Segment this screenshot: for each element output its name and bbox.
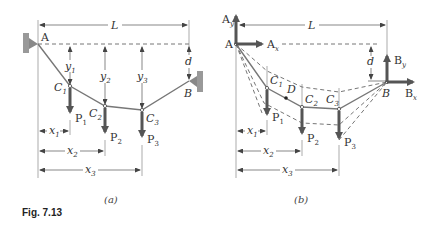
alt-shape-right (339, 82, 387, 140)
label-point-a: A (224, 38, 234, 51)
label-bx: Bx (405, 87, 417, 102)
label-p3: P3 (147, 133, 159, 148)
label-point-c1: C1 (270, 74, 283, 89)
label-point-b: B (183, 87, 192, 100)
label-by: By (394, 54, 407, 69)
support-b-wall (197, 71, 203, 92)
label-ay: Ay (221, 13, 235, 28)
panel-b: L d D Ay Ax A By Bx B C1 C2 (221, 13, 417, 205)
label-y2: y2 (99, 70, 111, 85)
label-p2: P2 (307, 132, 319, 147)
label-y3: y3 (136, 70, 148, 85)
support-b-pin (189, 76, 197, 87)
label-point-a: A (40, 31, 50, 44)
label-point-c3: C3 (326, 93, 339, 108)
label-d: d (367, 55, 374, 68)
label-d: d (185, 55, 192, 68)
label-point-c2: C2 (305, 93, 318, 108)
label-x2: x2 (67, 144, 78, 159)
panel-a: L y1 y2 y3 d A B C1 C2 C3 P1 P2 P3 (23, 19, 203, 205)
label-p3: P3 (344, 136, 356, 151)
cable-diagram: L y1 y2 y3 d A B C1 C2 C3 P1 P2 P3 (0, 0, 436, 225)
point-d (284, 96, 288, 100)
label-p1: P1 (75, 112, 87, 127)
label-point-d: D (286, 83, 296, 96)
label-x3: x3 (282, 163, 293, 178)
label-point-c2: C2 (89, 107, 102, 122)
node-c2 (300, 105, 303, 108)
label-l: L (110, 19, 118, 32)
figure-caption: Fig. 7.13 (22, 207, 62, 218)
label-x3: x3 (85, 163, 96, 178)
label-y1: y1 (64, 60, 76, 75)
label-p1: P1 (272, 111, 284, 126)
label-x1: x1 (247, 124, 258, 139)
label-l: L (307, 19, 315, 32)
alt-shape-upper (236, 44, 387, 92)
node-c1 (68, 84, 71, 87)
cable (38, 44, 189, 110)
support-a-pin (29, 38, 38, 49)
panel-b-label: (b) (294, 194, 308, 205)
alt-shape-steep (236, 44, 262, 113)
panel-a-label: (a) (104, 194, 118, 205)
label-point-c3: C3 (146, 112, 159, 127)
label-x1: x1 (49, 124, 60, 139)
node-c2 (103, 104, 106, 107)
label-ax: Ax (266, 38, 279, 53)
label-p2: P2 (110, 131, 122, 146)
node-c1 (265, 86, 268, 89)
label-x2: x2 (263, 144, 274, 159)
alt-shape-lower (236, 44, 387, 125)
label-point-b: B (381, 87, 390, 100)
support-a-wall (23, 33, 29, 53)
label-point-c1: C1 (54, 81, 67, 96)
node-c3 (140, 108, 143, 111)
